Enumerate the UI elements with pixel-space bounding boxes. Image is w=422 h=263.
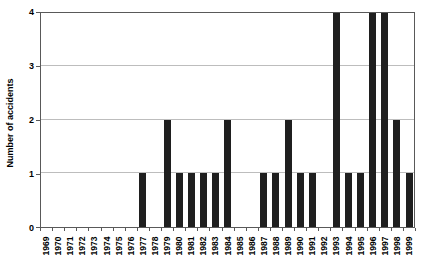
x-tick-label-1995: 1995 [356,231,366,261]
y-tick-label-1: 1 [14,169,34,180]
x-tick-label-1982: 1982 [198,231,208,261]
bar-1988 [272,173,279,227]
x-tick-label-1993: 1993 [331,231,341,261]
x-tick-label-1978: 1978 [150,231,160,261]
x-tick-label-1986: 1986 [247,231,257,261]
x-tick-label-1973: 1973 [89,231,99,261]
x-tick-label-1980: 1980 [174,231,184,261]
bar-1980 [176,173,183,227]
x-tick-31 [415,228,416,231]
y-tick-label-0: 0 [14,223,34,234]
x-tick-label-1974: 1974 [102,231,112,261]
x-tick-label-1988: 1988 [271,231,281,261]
x-tick-label-1998: 1998 [392,231,402,261]
bar-1984 [224,120,231,227]
x-tick-label-1971: 1971 [65,231,75,261]
x-tick-label-1992: 1992 [319,231,329,261]
y-tick-label-2: 2 [14,115,34,126]
x-tick-label-1972: 1972 [77,231,87,261]
x-tick-label-1975: 1975 [114,231,124,261]
bar-1987 [260,173,267,227]
bar-1981 [188,173,195,227]
bar-1996 [369,13,376,227]
bar-1997 [381,13,388,227]
gridline-3 [41,65,414,66]
bar-1991 [309,173,316,227]
bar-1977 [139,173,146,227]
x-tick-label-1976: 1976 [126,231,136,261]
x-tick-label-1985: 1985 [235,231,245,261]
bar-1999 [406,173,413,227]
y-tick-2 [36,120,40,121]
x-tick-label-1977: 1977 [138,231,148,261]
x-tick-label-1991: 1991 [307,231,317,261]
bar-1989 [285,120,292,227]
bar-1994 [345,173,352,227]
plot-area [40,12,415,228]
bar-1993 [333,13,340,227]
x-tick-label-1997: 1997 [380,231,390,261]
x-tick-label-1984: 1984 [223,231,233,261]
y-tick-label-4: 4 [14,7,34,18]
bar-1983 [212,173,219,227]
x-tick-label-1990: 1990 [295,231,305,261]
y-tick-1 [36,174,40,175]
x-tick-label-1981: 1981 [186,231,196,261]
x-tick-label-1999: 1999 [404,231,414,261]
y-tick-label-3: 3 [14,61,34,72]
x-tick-label-1983: 1983 [210,231,220,261]
bar-chart: Number of accidents 01234 19691970197119… [0,0,422,263]
x-tick-label-1969: 1969 [41,231,51,261]
x-tick-label-1970: 1970 [53,231,63,261]
x-tick-label-1987: 1987 [259,231,269,261]
x-tick-label-1979: 1979 [162,231,172,261]
bar-1990 [297,173,304,227]
y-tick-3 [36,66,40,67]
x-tick-label-1996: 1996 [368,231,378,261]
bar-1995 [357,173,364,227]
x-tick-label-1994: 1994 [344,231,354,261]
bar-1982 [200,173,207,227]
y-tick-4 [36,12,40,13]
bar-1979 [164,120,171,227]
bar-1998 [393,120,400,227]
x-tick-label-1989: 1989 [283,231,293,261]
